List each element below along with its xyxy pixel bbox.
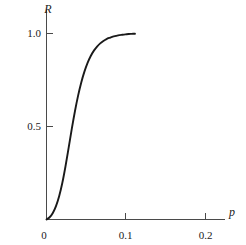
x-axis-title: p — [228, 205, 235, 219]
plot-area: R p 1.0 0.5 0.1 0.2 0 — [0, 0, 246, 245]
y-tick-label-0.5: 0.5 — [27, 120, 41, 132]
x-tick-label-0.1: 0.1 — [119, 229, 133, 241]
origin-label: 0 — [41, 229, 47, 241]
chart-figure: R p 1.0 0.5 0.1 0.2 0 — [0, 0, 246, 245]
data-curve-R-of-p — [47, 34, 135, 220]
x-tick-label-0.2: 0.2 — [199, 229, 213, 241]
y-tick-label-1.0: 1.0 — [27, 27, 41, 39]
y-axis-title: R — [43, 2, 52, 16]
